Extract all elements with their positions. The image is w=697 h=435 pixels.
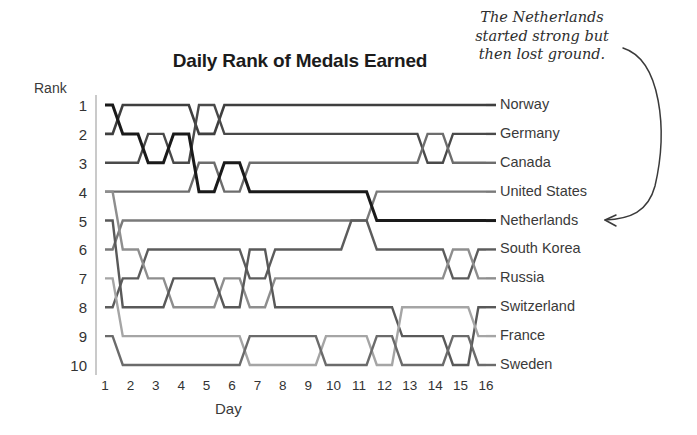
plot-area [0, 0, 697, 435]
series-line-france [105, 278, 486, 365]
series-line-switzerland [105, 221, 486, 365]
series-line-sweden [105, 336, 486, 365]
annotation-arrowhead [605, 215, 616, 226]
series-line-norway [105, 105, 486, 134]
chart-container: Daily Rank of Medals Earned The Netherla… [0, 0, 697, 435]
series-line-south-korea [105, 221, 486, 308]
annotation-arrow [605, 48, 661, 220]
